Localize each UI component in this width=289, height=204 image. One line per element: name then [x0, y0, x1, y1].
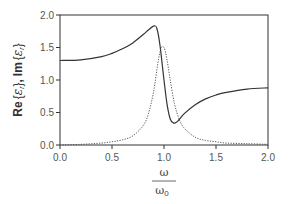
x-tick-label: 1.0 [157, 152, 171, 163]
svg-text:Re{εr},Im{εr}: Re{εr},Im{εr} [11, 43, 25, 116]
y-tick-label: 2.0 [40, 10, 54, 21]
svg-text:ω0: ω0 [155, 184, 169, 198]
series-lines [60, 26, 268, 145]
y-tick-label: 0.5 [40, 107, 54, 118]
re-eps-line [60, 26, 268, 123]
x-tick-label: 0.0 [53, 152, 67, 163]
y-axis-label: Re{εr},Im{εr} [11, 43, 25, 116]
im-eps-line [60, 46, 268, 145]
x-tick-label: 2.0 [261, 152, 275, 163]
y-tick-label: 1.5 [40, 42, 54, 53]
x-axis-label: ω ω0 [152, 166, 176, 198]
chart: 0.00.51.01.52.0 0.00.51.01.52.0 Re{εr},I… [0, 0, 289, 204]
x-tick-label: 1.5 [209, 152, 223, 163]
x-axis-ticks: 0.00.51.01.52.0 [53, 145, 275, 163]
y-tick-label: 1.0 [40, 75, 54, 86]
y-tick-label: 0.0 [40, 140, 54, 151]
y-axis-ticks: 0.00.51.01.52.0 [40, 10, 60, 151]
x-tick-label: 0.5 [105, 152, 119, 163]
svg-text:ω: ω [160, 166, 169, 179]
